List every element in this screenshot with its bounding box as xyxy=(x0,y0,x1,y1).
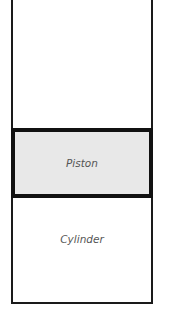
cylinder-bottom-wall xyxy=(11,302,153,304)
piston-block: Piston xyxy=(11,128,153,198)
cylinder-label: Cylinder xyxy=(13,233,151,245)
piston-label: Piston xyxy=(66,157,98,169)
